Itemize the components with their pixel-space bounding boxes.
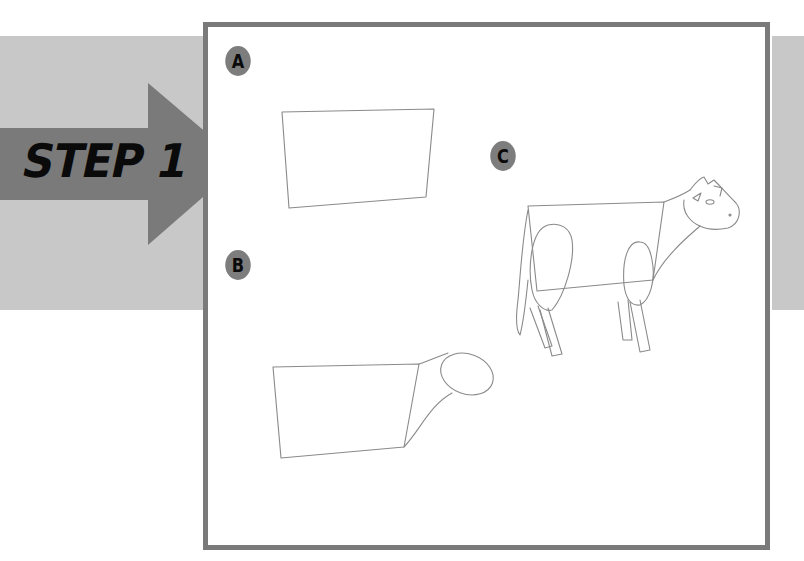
panel-badge-b: B bbox=[225, 250, 251, 280]
illustration-frame bbox=[203, 22, 770, 550]
step-title: STEP 1 bbox=[18, 138, 192, 184]
panel-badge-a: A bbox=[225, 46, 251, 76]
background-band-right bbox=[772, 36, 804, 310]
panel-badge-c: C bbox=[490, 141, 516, 171]
